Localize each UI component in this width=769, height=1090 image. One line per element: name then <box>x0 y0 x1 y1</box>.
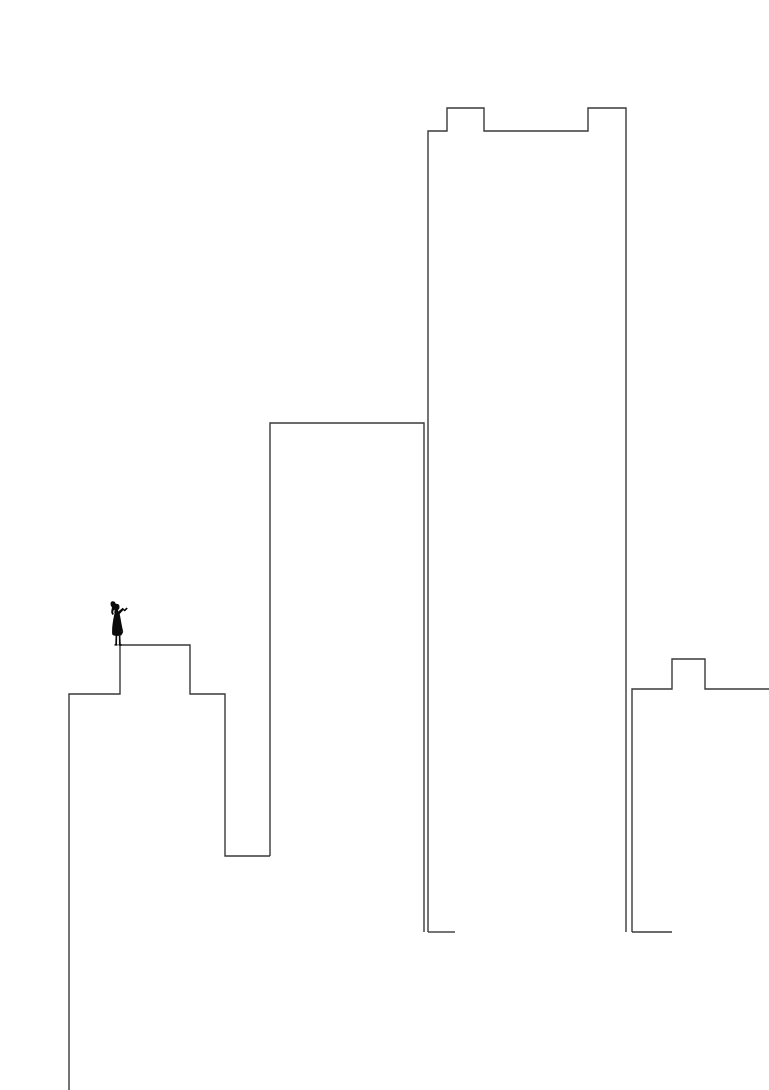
canvas-background <box>0 0 769 1090</box>
artboard <box>0 0 769 1090</box>
girl-head-shape <box>113 604 120 611</box>
skyline-drawing <box>0 0 769 1090</box>
